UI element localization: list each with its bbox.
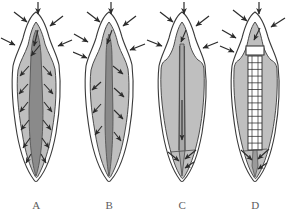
lateral-right-arrow-c xyxy=(203,42,218,48)
panel-a: A xyxy=(0,0,73,217)
panel-d-illustration xyxy=(219,0,292,200)
panel-a-illustration xyxy=(0,0,73,200)
lateral-left-lower-arrow-d xyxy=(220,46,234,52)
lateral-left-arrow-b xyxy=(74,34,88,42)
panel-label-b: B xyxy=(73,199,146,211)
lateral-right-arrow-a xyxy=(58,40,72,46)
tooth-stress-figure: A xyxy=(0,0,293,217)
panel-d: D xyxy=(219,0,292,217)
lateral-right-arrow-b xyxy=(130,44,145,50)
pulp-canal-b xyxy=(105,34,113,176)
oblique-upper-left-arrow-a xyxy=(14,12,27,22)
oblique-upper-right-arrow-b xyxy=(123,16,136,26)
panel-c: C xyxy=(146,0,219,217)
oblique-upper-left-arrow-b xyxy=(87,12,100,22)
oblique-upper-left-arrow-c xyxy=(160,12,173,22)
lateral-left-arrow-c xyxy=(147,40,162,46)
post-head-d xyxy=(246,46,264,55)
oblique-upper-right-arrow-d xyxy=(271,18,285,27)
panel-b-illustration xyxy=(73,0,146,200)
oblique-upper-right-arrow-a xyxy=(50,16,63,26)
oblique-upper-right-arrow-c xyxy=(196,16,209,26)
panel-label-d: D xyxy=(219,199,292,211)
panel-label-a: A xyxy=(0,199,73,211)
post-shaft-d xyxy=(248,56,262,150)
panel-b: B xyxy=(73,0,146,217)
panel-label-c: C xyxy=(146,199,219,211)
panel-c-illustration xyxy=(146,0,219,200)
lateral-left-arrow-d xyxy=(222,30,236,38)
lateral-left-arrow-a xyxy=(1,38,15,45)
lateral-left-lower-arrow-b xyxy=(73,52,87,58)
oblique-upper-left-arrow-d xyxy=(233,10,247,21)
